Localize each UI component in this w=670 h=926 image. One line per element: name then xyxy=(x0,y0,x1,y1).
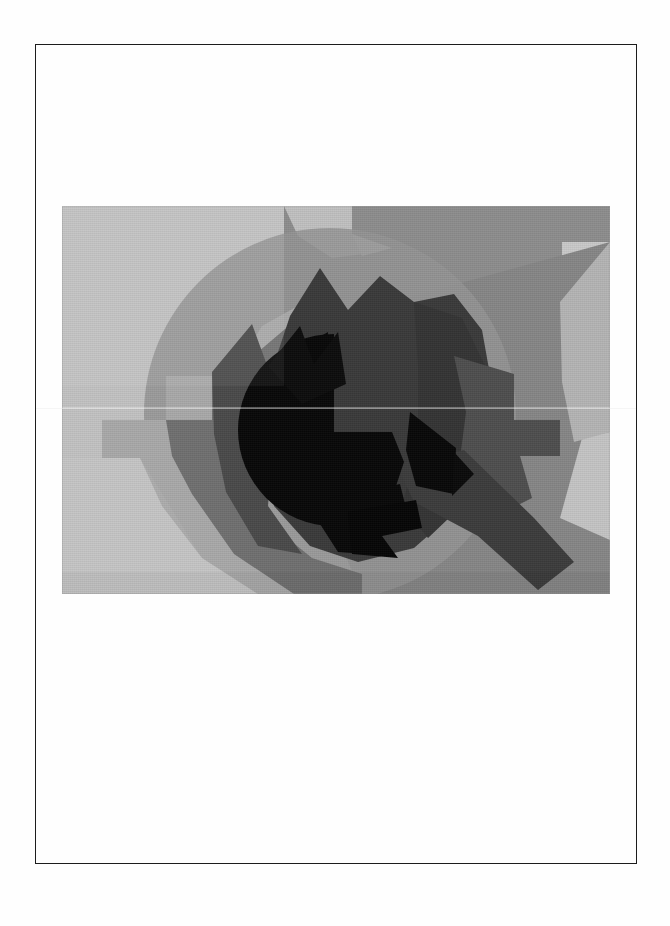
abstract-composition-illustration xyxy=(62,206,610,594)
artwork-plate xyxy=(62,206,610,594)
figure-caption-area xyxy=(62,606,610,646)
overlay-veil-upper-left xyxy=(62,206,284,386)
scan-line-overlay xyxy=(62,407,610,408)
scanned-page-sheet xyxy=(0,0,670,926)
overlay-veil-bottom-strip xyxy=(62,572,610,594)
